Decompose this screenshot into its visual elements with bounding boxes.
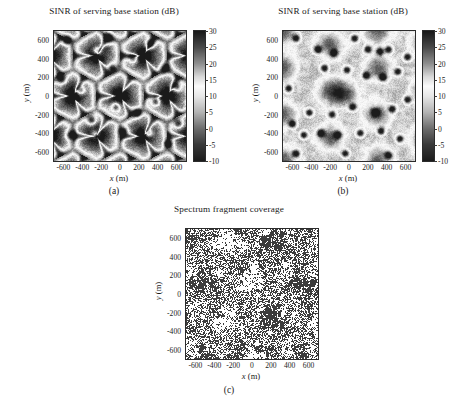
- ytick-label: -400: [27, 129, 49, 138]
- xtick-label: -400: [207, 361, 221, 370]
- colorbar-tick-label: -10: [438, 157, 448, 166]
- colorbar-tick-mark: [434, 161, 437, 162]
- colorbar-tick-mark: [434, 129, 437, 130]
- colorbar-tick-label: 5: [209, 108, 213, 117]
- xtick-label: -600: [285, 163, 299, 172]
- colorbar-tick-label: 10: [209, 92, 217, 101]
- panel-c-ylabel-var: y: [153, 296, 163, 300]
- panel-a-heatmap: [54, 31, 186, 161]
- panel-b-heatmap: [283, 31, 415, 161]
- panel-b-xlabel: x (m): [282, 173, 414, 183]
- colorbar-tick-label: 5: [438, 108, 442, 117]
- colorbar-tick-label: -5: [438, 140, 444, 149]
- panel-b-colorbar-gradient: [423, 31, 434, 161]
- xtick-label: 200: [265, 361, 276, 370]
- panel-c-coverage-map: [186, 229, 318, 359]
- panel-c-title: Spectrum fragment coverage: [115, 204, 343, 214]
- panel-c: Spectrum fragment coverage -600-400-2000…: [115, 204, 343, 400]
- xtick-label: -400: [75, 163, 89, 172]
- figure-root: SINR of serving base station (dB) -600-4…: [0, 0, 457, 402]
- xtick-label: 0: [118, 163, 122, 172]
- colorbar-tick-label: 30: [438, 27, 446, 36]
- colorbar-tick-mark: [205, 80, 208, 81]
- xtick-label: 600: [303, 361, 314, 370]
- colorbar-tick-label: 0: [438, 124, 442, 133]
- colorbar-tick-mark: [205, 145, 208, 146]
- colorbar-tick-label: 15: [438, 75, 446, 84]
- colorbar-tick-label: 10: [438, 92, 446, 101]
- ytick-label: -400: [159, 327, 181, 336]
- colorbar-tick-mark: [205, 96, 208, 97]
- colorbar-tick-label: 20: [438, 59, 446, 68]
- ytick-label: -600: [159, 345, 181, 354]
- panel-b-title: SINR of serving base station (dB): [229, 6, 457, 16]
- colorbar-tick-mark: [434, 80, 437, 81]
- colorbar-tick-label: 20: [209, 59, 217, 68]
- colorbar-tick-mark: [434, 31, 437, 32]
- ytick-label: -600: [27, 147, 49, 156]
- xtick-label: -200: [226, 361, 240, 370]
- colorbar-tick-label: 25: [209, 43, 217, 52]
- panel-a-axes: [53, 30, 187, 162]
- colorbar-tick-label: 15: [209, 75, 217, 84]
- panel-a-title: SINR of serving base station (dB): [0, 6, 228, 16]
- xtick-label: 200: [362, 163, 373, 172]
- panel-b: SINR of serving base station (dB) -600-4…: [229, 6, 457, 200]
- xtick-label: -600: [56, 163, 70, 172]
- colorbar-tick-mark: [205, 47, 208, 48]
- panel-c-ylabel: y (m): [153, 261, 163, 321]
- panel-a-ylabel-unit: (m): [21, 84, 31, 96]
- panel-a-ylabel-var: y: [21, 98, 31, 102]
- panel-c-xlabel-unit: (m): [248, 371, 260, 381]
- ytick-label: 400: [159, 252, 181, 261]
- panel-b-ylabel: y (m): [250, 63, 260, 123]
- panel-a-ylabel: y (m): [21, 63, 31, 123]
- panel-c-xlabel: x (m): [185, 371, 317, 381]
- xtick-label: 400: [381, 163, 392, 172]
- colorbar-tick-label: -5: [209, 140, 215, 149]
- colorbar-tick-label: -10: [209, 157, 219, 166]
- xtick-label: 600: [171, 163, 182, 172]
- ytick-label: -400: [256, 129, 278, 138]
- panel-b-caption: (b): [229, 186, 457, 196]
- panel-c-axes: [185, 228, 319, 360]
- panel-a-caption: (a): [0, 186, 228, 196]
- xtick-label: 200: [133, 163, 144, 172]
- xtick-label: 400: [152, 163, 163, 172]
- colorbar-tick-mark: [434, 96, 437, 97]
- xtick-label: -400: [304, 163, 318, 172]
- panel-c-ylabel-unit: (m): [153, 282, 163, 294]
- xtick-label: -600: [188, 361, 202, 370]
- panel-b-ylabel-unit: (m): [250, 84, 260, 96]
- colorbar-tick-mark: [434, 47, 437, 48]
- panel-a-xlabel: x (m): [53, 173, 185, 183]
- colorbar-tick-mark: [434, 145, 437, 146]
- xtick-label: 400: [284, 361, 295, 370]
- panel-b-axes: [282, 30, 416, 162]
- ytick-label: -600: [256, 147, 278, 156]
- panel-a-xlabel-unit: (m): [116, 173, 128, 183]
- colorbar-tick-label: 25: [438, 43, 446, 52]
- xtick-label: 0: [347, 163, 351, 172]
- panel-b-ylabel-var: y: [250, 98, 260, 102]
- colorbar-tick-mark: [205, 161, 208, 162]
- colorbar-tick-mark: [205, 64, 208, 65]
- xtick-label: 0: [250, 361, 254, 370]
- panel-b-xlabel-unit: (m): [345, 173, 357, 183]
- colorbar-tick-mark: [434, 64, 437, 65]
- ytick-label: 600: [27, 36, 49, 45]
- ytick-label: 400: [27, 54, 49, 63]
- xtick-label: -200: [323, 163, 337, 172]
- xtick-label: 600: [400, 163, 411, 172]
- panel-a: SINR of serving base station (dB) -600-4…: [0, 6, 228, 200]
- colorbar-tick-label: 30: [209, 27, 217, 36]
- ytick-label: 600: [256, 36, 278, 45]
- panel-a-colorbar-gradient: [194, 31, 205, 161]
- ytick-label: 400: [256, 54, 278, 63]
- ytick-label: 600: [159, 234, 181, 243]
- xtick-label: -200: [94, 163, 108, 172]
- colorbar-tick-label: 0: [209, 124, 213, 133]
- colorbar-tick-mark: [205, 129, 208, 130]
- colorbar-tick-mark: [434, 112, 437, 113]
- colorbar-tick-mark: [205, 31, 208, 32]
